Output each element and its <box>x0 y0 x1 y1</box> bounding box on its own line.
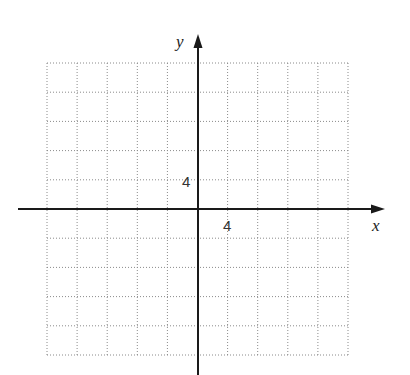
y-axis-arrow-icon <box>194 34 203 48</box>
y-axis-label: y <box>174 32 184 51</box>
x-tick-label-4: 4 <box>223 217 231 234</box>
coordinate-plane: y x 4 4 <box>0 0 410 375</box>
x-axis-arrow-icon <box>371 205 385 214</box>
x-axis-label: x <box>371 216 380 235</box>
y-tick-label-4: 4 <box>182 173 190 190</box>
